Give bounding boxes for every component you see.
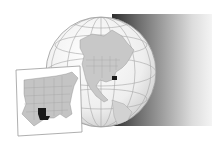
highlighted-state-on-globe	[112, 76, 117, 80]
locator-map	[0, 0, 212, 143]
map-graphic	[0, 0, 212, 143]
inset-map	[16, 66, 82, 136]
